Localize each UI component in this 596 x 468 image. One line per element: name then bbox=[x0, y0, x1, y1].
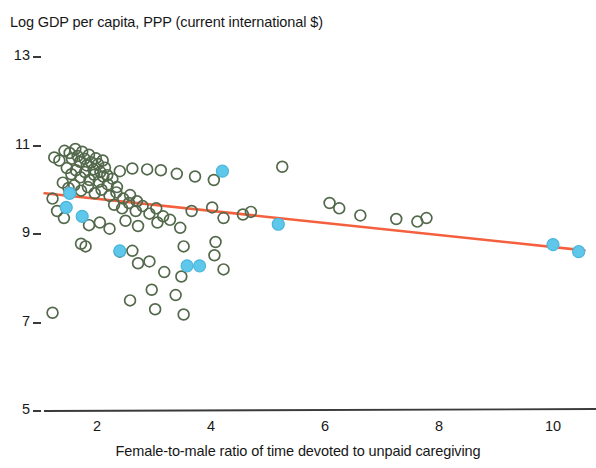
data-point bbox=[186, 206, 197, 217]
data-point bbox=[150, 304, 161, 315]
data-point bbox=[142, 164, 153, 175]
data-point bbox=[190, 171, 201, 182]
data-point bbox=[64, 187, 76, 199]
data-point bbox=[194, 260, 206, 272]
data-point bbox=[159, 267, 170, 278]
data-point bbox=[391, 214, 402, 225]
data-point bbox=[277, 161, 288, 172]
data-point bbox=[547, 239, 559, 251]
data-point bbox=[155, 165, 166, 176]
data-point bbox=[146, 284, 157, 295]
data-point bbox=[208, 175, 219, 186]
data-point bbox=[176, 271, 187, 282]
data-point bbox=[334, 203, 345, 214]
data-point bbox=[60, 201, 72, 213]
chart-figure: Log GDP per capita, PPP (current interna… bbox=[0, 0, 596, 468]
axis-lines bbox=[44, 409, 596, 411]
data-point bbox=[178, 309, 189, 320]
data-point bbox=[218, 264, 229, 275]
data-points-other-countries bbox=[47, 144, 432, 320]
data-point bbox=[133, 221, 144, 232]
data-point bbox=[133, 258, 144, 269]
x-axis-line bbox=[44, 409, 596, 411]
data-point bbox=[181, 260, 193, 272]
data-point bbox=[573, 246, 585, 258]
data-point bbox=[178, 241, 189, 252]
data-point bbox=[127, 245, 138, 256]
data-point bbox=[209, 250, 220, 261]
data-point bbox=[114, 166, 125, 177]
data-point bbox=[114, 245, 126, 257]
x-axis-label: Female-to-male ratio of time devoted to … bbox=[0, 443, 596, 459]
data-point bbox=[59, 213, 70, 224]
data-point bbox=[127, 163, 138, 174]
data-point bbox=[175, 222, 186, 233]
data-point bbox=[144, 256, 155, 267]
data-point bbox=[421, 213, 432, 224]
data-point bbox=[94, 217, 105, 228]
data-point bbox=[272, 218, 284, 230]
data-point bbox=[170, 290, 181, 301]
data-point bbox=[125, 295, 136, 306]
regression-trend-line bbox=[45, 193, 585, 250]
data-point bbox=[47, 307, 58, 318]
data-point bbox=[216, 165, 228, 177]
data-points-highlighted-countries bbox=[60, 165, 584, 272]
trend-line bbox=[45, 193, 585, 250]
data-point bbox=[120, 215, 131, 226]
data-point bbox=[210, 237, 221, 248]
data-point bbox=[76, 210, 88, 222]
data-point bbox=[171, 168, 182, 179]
data-point bbox=[218, 213, 229, 224]
scatter-plot-canvas bbox=[0, 0, 596, 468]
data-point bbox=[104, 223, 115, 234]
data-point bbox=[355, 210, 366, 221]
